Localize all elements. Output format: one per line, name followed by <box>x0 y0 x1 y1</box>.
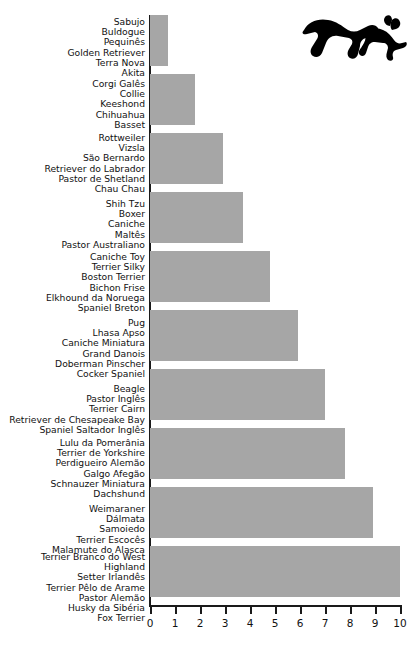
x-tick <box>175 605 177 614</box>
bar <box>150 15 168 66</box>
x-tick <box>375 605 377 614</box>
bar <box>150 369 325 420</box>
category-group: Rottweiler Vizsla São Bernardo Retriever… <box>0 133 145 194</box>
x-tick <box>200 605 202 614</box>
x-tick <box>300 605 302 614</box>
x-tick <box>150 605 152 614</box>
bar <box>150 133 223 184</box>
x-tick-label: 6 <box>297 617 304 629</box>
x-tick-label: 7 <box>322 617 329 629</box>
category-label: Dachshund <box>0 489 145 499</box>
x-tick-label: 1 <box>172 617 179 629</box>
category-label: Spaniel Breton <box>0 303 145 313</box>
category-label: Fox Terrier <box>0 613 145 623</box>
x-tick <box>225 605 227 614</box>
x-tick <box>400 605 402 614</box>
category-label: Cocker Spaniel <box>0 369 145 379</box>
bar <box>150 546 400 597</box>
x-tick <box>275 605 277 614</box>
plot-area <box>150 15 400 605</box>
category-group: Corgi Galês Collie Keeshond Chihuahua Ba… <box>0 79 145 130</box>
bar <box>150 487 373 538</box>
category-group: Caniche Toy Terrier Silky Boston Terrier… <box>0 252 145 313</box>
x-tick-label: 9 <box>372 617 379 629</box>
x-tick-label: 5 <box>272 617 279 629</box>
category-label: Chau Chau <box>0 184 145 194</box>
category-label: Akita <box>0 68 145 78</box>
x-tick-label: 10 <box>393 617 406 629</box>
x-tick-label: 0 <box>147 617 154 629</box>
bar <box>150 251 270 302</box>
category-label: Spaniel Saltador Inglês <box>0 425 145 435</box>
category-group: Pug Lhasa Apso Caniche Miniatura Grand D… <box>0 318 145 379</box>
category-group: Terrier Branco do West Highland Setter I… <box>0 552 145 623</box>
bar <box>150 192 243 243</box>
x-tick-label: 8 <box>347 617 354 629</box>
category-group: Weimaraner Dálmata Samoiedo Terrier Esco… <box>0 504 145 555</box>
category-label: Basset <box>0 120 145 130</box>
category-group: Beagle Pastor Inglês Terrier Cairn Retri… <box>0 384 145 435</box>
horizontal-bar-chart: Sabujo Buldogue Pequinês Golden Retrieve… <box>0 0 416 656</box>
x-tick-label: 2 <box>197 617 204 629</box>
x-tick <box>350 605 352 614</box>
category-label-column: Sabujo Buldogue Pequinês Golden Retrieve… <box>0 15 145 605</box>
bar <box>150 310 298 361</box>
category-group: Lulu da Pomerânia Terrier de Yorkshire P… <box>0 438 145 499</box>
category-group: Sabujo Buldogue Pequinês Golden Retrieve… <box>0 17 145 78</box>
x-tick-label: 3 <box>222 617 229 629</box>
x-tick <box>325 605 327 614</box>
bar <box>150 74 195 125</box>
x-tick <box>250 605 252 614</box>
category-label: Pastor Australiano <box>0 240 145 250</box>
x-tick-label: 4 <box>247 617 254 629</box>
bar <box>150 428 345 479</box>
category-group: Shih Tzu Boxer Caniche Maltês Pastor Aus… <box>0 199 145 250</box>
